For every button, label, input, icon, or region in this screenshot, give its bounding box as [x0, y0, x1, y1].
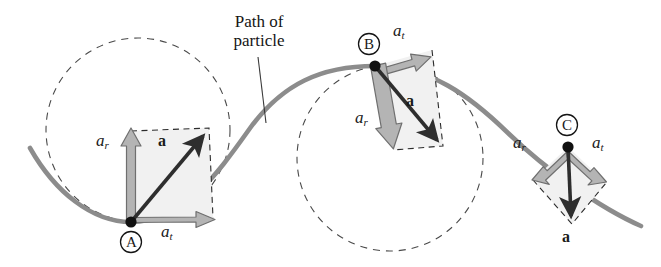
point-dot-c [562, 141, 573, 152]
point-dot-b [369, 60, 380, 71]
point-a-letter: A [126, 234, 137, 250]
vector-label-c-radial-c: ar [513, 133, 526, 152]
vector-b-resultant-symbol: a [406, 92, 414, 109]
vector-a-radial-subscript: r [105, 139, 109, 151]
path-of-particle-label: Path of particle [213, 12, 305, 50]
point-dot-a [125, 216, 136, 227]
vector-label-c-tangential-c: at [592, 133, 604, 152]
vector-a-tangential-subscript: t [170, 230, 173, 242]
vector-label-b-tangential-b: at [393, 21, 405, 40]
vector-a-tangential-symbol: a [161, 222, 170, 241]
vector-label-a-tangential-a: at [161, 222, 173, 241]
point-b-letter: B [364, 36, 374, 52]
vector-label-a-radial-a: ar [96, 131, 109, 150]
vector-label-b-resultant-b: a [406, 92, 414, 110]
path-label-line-2: particle [213, 31, 305, 50]
vector-label-a-resultant-a: a [158, 132, 166, 150]
point-c-letter: C [562, 117, 572, 133]
vector-c-radial-symbol: a [513, 133, 522, 152]
acceleration-components-diagram: Path of particle A ar at a B at ar a C a… [0, 0, 661, 267]
vector-a-resultant-symbol: a [158, 132, 166, 149]
point-label-c: C [562, 117, 572, 134]
vector-label-b-radial-b: ar [355, 108, 368, 127]
vector-b-radial-symbol: a [355, 108, 364, 127]
point-label-a: A [126, 234, 137, 251]
vector-c-tangential-symbol: a [592, 133, 601, 152]
vector-label-c-resultant-c: a [562, 228, 570, 246]
vector-a-radial-symbol: a [96, 131, 105, 150]
vector-b-tangential-subscript: t [402, 29, 405, 41]
vector-c-radial-subscript: r [522, 141, 526, 153]
path-label-line-1: Path of [213, 12, 305, 31]
vector-c-tangential-subscript: t [601, 141, 604, 153]
vector-c-resultant-symbol: a [562, 228, 570, 245]
point-label-b: B [364, 36, 374, 53]
vector-b-radial-subscript: r [364, 116, 368, 128]
vector-b-tangential-symbol: a [393, 21, 402, 40]
